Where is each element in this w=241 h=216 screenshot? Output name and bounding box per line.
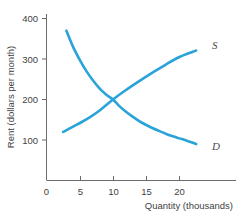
supply-curve [63,51,196,132]
demand-curve-label: D [211,140,220,152]
supply-curve-label: S [212,39,218,51]
y-tick-label-400: 400 [22,13,38,24]
x-tick-label-0: 0 [44,186,49,197]
supply-demand-chart: 400 300 200 100 0 5 10 15 20 Quantity (t… [0,0,241,216]
x-tick-label-5: 5 [78,186,83,197]
x-tick-label-15: 15 [141,186,152,197]
x-tick-label-20: 20 [174,186,185,197]
y-tick-label-200: 200 [22,94,38,105]
y-tick-label-100: 100 [22,135,38,146]
chart-canvas: 400 300 200 100 0 5 10 15 20 Quantity (t… [0,0,241,216]
y-tick-label-300: 300 [22,54,38,65]
x-tick-label-10: 10 [108,186,119,197]
x-axis-title: Quantity (thousands) [145,200,233,211]
y-axis-title: Rent (dollars per month) [5,46,16,148]
